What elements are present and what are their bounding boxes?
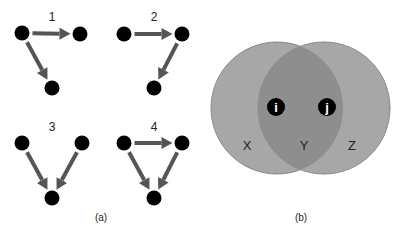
region-z-label: Z xyxy=(348,138,356,153)
motif-2: 2 xyxy=(117,10,190,96)
motif-label: 1 xyxy=(49,10,56,24)
arrow-edge xyxy=(129,152,144,180)
node-icon xyxy=(15,136,30,151)
caption-a: (a) xyxy=(95,212,107,223)
arrow-edge xyxy=(62,152,77,180)
region-y-label: Y xyxy=(300,138,309,153)
node-icon xyxy=(117,27,132,42)
node-icon xyxy=(147,81,162,96)
node-icon xyxy=(75,136,90,151)
node-j-label: j xyxy=(324,100,329,115)
arrow-edge xyxy=(163,43,177,69)
arrow-edge xyxy=(27,42,42,70)
node-icon xyxy=(175,27,190,42)
caption-b: (b) xyxy=(295,212,307,223)
node-i-label: i xyxy=(274,100,278,115)
node-icon xyxy=(147,191,162,206)
motif-1: 1 xyxy=(15,10,88,96)
node-icon xyxy=(45,191,60,206)
node-icon xyxy=(15,26,30,41)
venn-diagram: i j X Y Z xyxy=(211,42,390,174)
motif-label: 2 xyxy=(151,10,158,24)
node-icon xyxy=(73,27,88,42)
motif-label: 3 xyxy=(49,120,56,134)
node-icon xyxy=(175,136,190,151)
arrowhead-icon xyxy=(162,28,173,40)
panel-a-motifs: 1234 xyxy=(15,10,190,206)
node-icon xyxy=(117,136,132,151)
arrowhead-icon xyxy=(59,28,70,40)
arrow-edge xyxy=(27,152,42,180)
figure-canvas: 1234 i j X Y Z (a) (b) xyxy=(0,0,403,236)
arrow-edge xyxy=(163,152,177,179)
node-icon xyxy=(45,81,60,96)
arrowhead-icon xyxy=(162,137,173,149)
motif-4: 4 xyxy=(117,120,190,206)
region-x-label: X xyxy=(243,138,252,153)
motif-label: 4 xyxy=(151,120,158,134)
motif-3: 3 xyxy=(15,120,90,206)
